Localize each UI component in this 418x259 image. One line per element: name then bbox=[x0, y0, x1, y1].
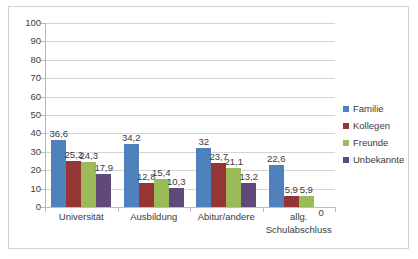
category-label-line: Abitur/andere bbox=[190, 211, 263, 224]
category-separator bbox=[335, 207, 336, 212]
bar[interactable]: 17,9 bbox=[96, 174, 111, 207]
bar-group: 34,212,815,410,3 bbox=[124, 23, 184, 207]
legend-item[interactable]: Freunde bbox=[343, 135, 415, 150]
bar-value-label: 5,9 bbox=[300, 185, 313, 195]
legend-label: Kollegen bbox=[353, 121, 390, 131]
legend-swatch-icon bbox=[343, 106, 349, 112]
y-axis-tick-label: 70 bbox=[15, 73, 41, 83]
bar-value-label: 21,1 bbox=[225, 157, 244, 167]
bar[interactable]: 5,9 bbox=[299, 196, 314, 207]
chart-frame: 1009080706050403020100 36,625,224,317,93… bbox=[8, 6, 409, 249]
bar-value-label: 22,6 bbox=[267, 154, 286, 164]
y-axis-tick-labels: 1009080706050403020100 bbox=[13, 23, 41, 207]
category-label-line: allg. bbox=[263, 211, 336, 224]
bar[interactable]: 13,2 bbox=[241, 183, 256, 207]
category-label: Universität bbox=[45, 211, 118, 224]
legend-label: Freunde bbox=[353, 138, 388, 148]
bar-value-label: 24,3 bbox=[80, 151, 99, 161]
y-axis-tick-label: 40 bbox=[15, 128, 41, 138]
category-label: allg.Schulabschluss bbox=[263, 211, 336, 236]
bar[interactable]: 25,2 bbox=[66, 161, 81, 207]
category-label-line: Ausbildung bbox=[118, 211, 191, 224]
y-axis-tick-label: 100 bbox=[15, 18, 41, 28]
y-axis-tick-label: 50 bbox=[15, 110, 41, 120]
bar-group: 22,65,95,90 bbox=[269, 23, 329, 207]
category-label-line: Schulabschluss bbox=[263, 224, 336, 237]
legend-label: Unbekannte bbox=[353, 155, 404, 165]
legend-swatch-icon bbox=[343, 140, 349, 146]
bar-value-label: 36,6 bbox=[50, 129, 69, 139]
chart-legend: FamilieKollegenFreundeUnbekannte bbox=[343, 101, 415, 169]
bar[interactable]: 10,3 bbox=[169, 188, 184, 207]
plot-area: 36,625,224,317,934,212,815,410,33223,721… bbox=[45, 23, 335, 207]
legend-item[interactable]: Familie bbox=[343, 101, 415, 116]
legend-swatch-icon bbox=[343, 123, 349, 129]
bar[interactable]: 12,8 bbox=[139, 183, 154, 207]
category-label: Ausbildung bbox=[118, 211, 191, 224]
bar-value-label: 32 bbox=[198, 137, 209, 147]
bar[interactable]: 23,7 bbox=[211, 163, 226, 207]
x-axis-category-labels: UniversitätAusbildungAbitur/andereallg.S… bbox=[45, 211, 335, 249]
bar-group: 3223,721,113,2 bbox=[196, 23, 256, 207]
y-axis-tick-label: 10 bbox=[15, 184, 41, 194]
legend-item[interactable]: Unbekannte bbox=[343, 152, 415, 167]
y-axis-tick-label: 20 bbox=[15, 165, 41, 175]
legend-swatch-icon bbox=[343, 157, 349, 163]
category-label-line: Universität bbox=[45, 211, 118, 224]
bar[interactable]: 22,6 bbox=[269, 165, 284, 207]
bar-value-label: 5,9 bbox=[285, 185, 298, 195]
y-axis-tick-label: 80 bbox=[15, 55, 41, 65]
bar-value-label: 10,3 bbox=[167, 177, 186, 187]
y-axis-tick-label: 0 bbox=[15, 202, 41, 212]
bar-value-label: 17,9 bbox=[95, 163, 114, 173]
bar[interactable]: 5,9 bbox=[284, 196, 299, 207]
bar-value-label: 13,2 bbox=[240, 172, 259, 182]
y-axis-tick-label: 60 bbox=[15, 92, 41, 102]
bar-group: 36,625,224,317,9 bbox=[51, 23, 111, 207]
y-axis-tick-label: 90 bbox=[15, 36, 41, 46]
legend-item[interactable]: Kollegen bbox=[343, 118, 415, 133]
legend-label: Familie bbox=[353, 104, 384, 114]
bar-value-label: 34,2 bbox=[122, 133, 141, 143]
category-label: Abitur/andere bbox=[190, 211, 263, 224]
y-axis-tick-label: 30 bbox=[15, 147, 41, 157]
